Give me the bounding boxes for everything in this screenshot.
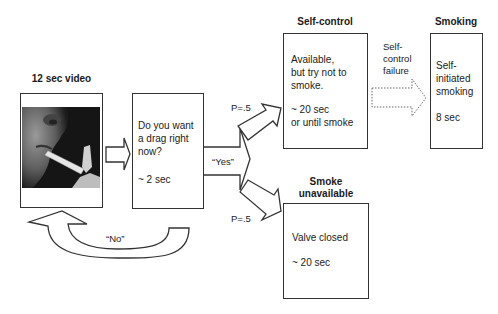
no-label: “No”: [106, 233, 124, 244]
self-control-duration: ~ 20 sec or until smoke: [291, 103, 353, 129]
smoking-line-2: initiated: [436, 72, 473, 85]
unavailable-title-2: unavailable: [283, 188, 369, 200]
unavailable-title-1: Smoke: [283, 176, 369, 188]
failure-line-2: control: [383, 53, 412, 65]
failure-line-1: Self-: [383, 41, 412, 53]
smoking-text: Self- initiated smoking: [436, 59, 473, 98]
self-control-text: Available, but try not to smoke.: [291, 53, 347, 92]
self-control-duration-1: ~ 20 sec: [291, 103, 353, 116]
self-control-line-1: Available,: [291, 53, 347, 66]
unavailable-duration: ~ 20 sec: [292, 256, 330, 269]
smoking-video-image: [22, 107, 100, 188]
smoking-duration: 8 sec: [436, 111, 460, 124]
self-control-failure-arrow: [372, 79, 426, 116]
question-line-3: now?: [138, 145, 194, 158]
smoker-face-graphic: [22, 107, 100, 188]
question-text: Do you want a drag right now?: [138, 119, 194, 158]
p-lower-label: P=.5: [231, 213, 251, 224]
unavailable-box: [283, 203, 369, 299]
yes-label: “Yes”: [212, 156, 234, 167]
smoking-title: Smoking: [426, 16, 486, 28]
video-title: 12 sec video: [20, 73, 103, 85]
question-line-1: Do you want: [138, 119, 194, 132]
self-control-duration-2: or until smoke: [291, 116, 353, 129]
self-control-line-3: smoke.: [291, 79, 347, 92]
video-to-question-arrow: [106, 138, 130, 170]
failure-label: Self- control failure: [383, 41, 412, 77]
smoking-line-3: smoking: [436, 85, 473, 98]
self-control-title: Self-control: [283, 16, 367, 28]
question-line-2: a drag right: [138, 132, 194, 145]
question-duration: ~ 2 sec: [138, 173, 171, 186]
unavailable-text: Valve closed: [292, 231, 348, 244]
failure-line-3: failure: [383, 65, 412, 77]
smoking-line-1: Self-: [436, 59, 473, 72]
unavailable-title: Smoke unavailable: [283, 176, 369, 200]
self-control-line-2: but try not to: [291, 66, 347, 79]
p-upper-label: P=.5: [231, 102, 251, 113]
